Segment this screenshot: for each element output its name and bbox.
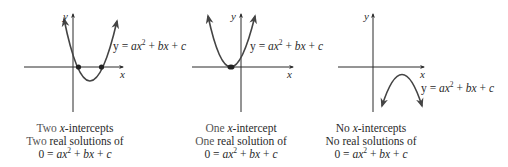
panel-no-intercepts (338, 14, 424, 112)
parabola-curve (208, 16, 255, 67)
x-axis-label: x (420, 68, 425, 80)
intercept-point (76, 64, 81, 69)
caption-one-intercept: One x-intercept One real solution of 0 =… (166, 122, 316, 161)
panel-one-intercept (192, 14, 293, 112)
caption-line-1: Two x-intercepts (0, 122, 150, 135)
equation-label: y = ax2 + bx + c (421, 82, 494, 94)
y-axis-label: y (364, 10, 369, 22)
caption-line-2: One real solution of (166, 135, 316, 148)
caption-line-1: No x-intercepts (296, 122, 446, 135)
panel-two-intercepts (24, 14, 123, 112)
x-axis-label: x (287, 68, 292, 80)
y-axis-label: y (231, 10, 236, 22)
equation-label: y = ax2 + bx + c (113, 40, 186, 52)
y-axis-label: y (63, 10, 68, 22)
parabola-curve (64, 19, 117, 81)
caption-line-2: No real solutions of (296, 135, 446, 148)
caption-line-3: 0 = ax2 + bx + c (296, 148, 446, 161)
caption-line-2: Two real solutions of (0, 135, 150, 148)
parabola-curve (382, 75, 422, 107)
intercept-point (99, 64, 104, 69)
x-axis-label: x (120, 68, 125, 80)
caption-line-1: One x-intercept (166, 122, 316, 135)
intercept-point (228, 64, 235, 69)
caption-no-intercepts: No x-intercepts No real solutions of 0 =… (296, 122, 446, 161)
caption-line-3: 0 = ax2 + bx + c (0, 148, 150, 161)
equation-label: y = ax2 + bx + c (250, 40, 323, 52)
caption-two-intercepts: Two x-intercepts Two real solutions of 0… (0, 122, 150, 161)
caption-line-3: 0 = ax2 + bx + c (166, 148, 316, 161)
